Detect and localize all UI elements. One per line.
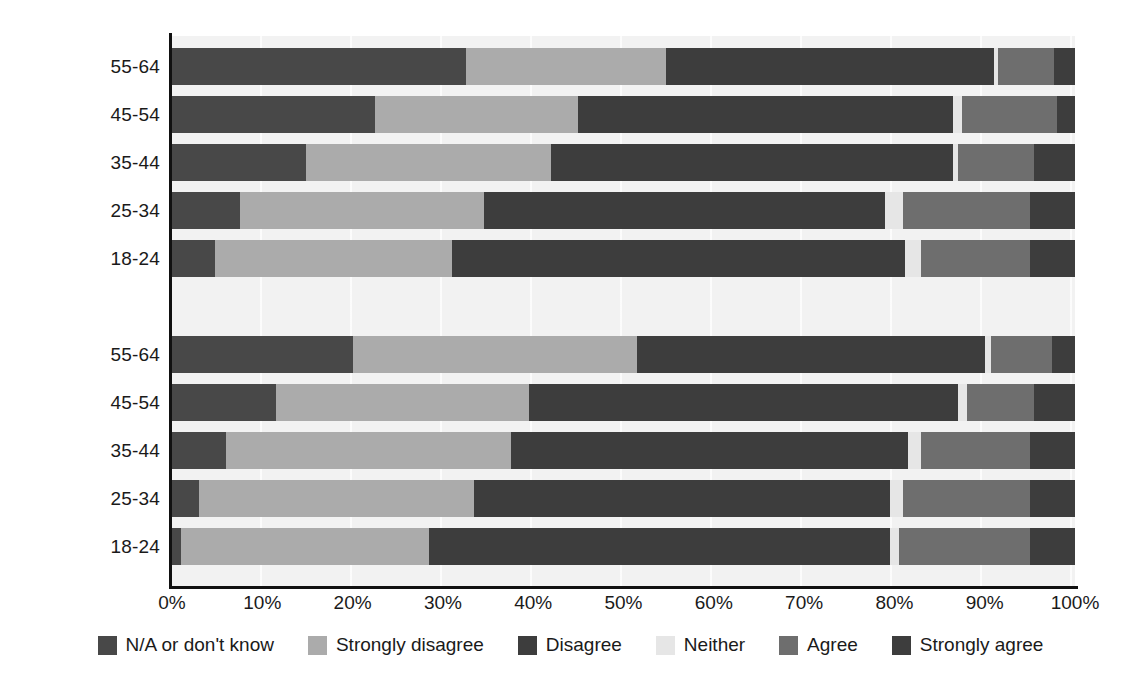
- legend-item[interactable]: Strongly agree: [892, 634, 1044, 656]
- bar-row: [172, 384, 1075, 421]
- legend-item[interactable]: Agree: [779, 634, 858, 656]
- bar-segment: [199, 480, 474, 517]
- legend-item[interactable]: Strongly disagree: [308, 634, 484, 656]
- bar-segment: [306, 144, 552, 181]
- bar-segment: [967, 384, 1035, 421]
- group-label: Women: [0, 152, 55, 174]
- legend-swatch-icon: [98, 636, 117, 655]
- bar-row: [172, 48, 1075, 85]
- bar-segment: [1030, 528, 1075, 565]
- bar-row: [172, 144, 1075, 181]
- x-tick-label: 30%: [424, 592, 462, 614]
- bar-segment: [998, 48, 1053, 85]
- bar-segment: [991, 336, 1052, 373]
- bar-segment: [172, 144, 306, 181]
- bar-row: [172, 432, 1075, 469]
- bar-segment: [578, 96, 953, 133]
- bar-segment: [1030, 432, 1075, 469]
- bar-segment: [226, 432, 510, 469]
- plot-area: [172, 36, 1075, 586]
- bar-segment: [172, 480, 199, 517]
- bar-segment: [899, 528, 1030, 565]
- stacked-bar-chart: 55-6445-5435-4425-3418-2455-6445-5435-44…: [0, 0, 1141, 698]
- bar-segment: [1030, 480, 1075, 517]
- legend-item[interactable]: Neither: [656, 634, 745, 656]
- x-tick-label: 20%: [334, 592, 372, 614]
- bar-segment: [276, 384, 529, 421]
- bar-row: [172, 336, 1075, 373]
- bar-row: [172, 96, 1075, 133]
- bar-segment: [1030, 192, 1075, 229]
- legend-swatch-icon: [308, 636, 327, 655]
- bar-segment: [1030, 240, 1075, 277]
- x-tick-label: 50%: [604, 592, 642, 614]
- x-tick-label: 70%: [785, 592, 823, 614]
- bar-segment: [1034, 384, 1075, 421]
- bar-segment: [240, 192, 484, 229]
- legend-label: Strongly disagree: [336, 634, 484, 656]
- bar-segment: [908, 432, 922, 469]
- x-axis-tick-labels: 0%10%20%30%40%50%60%70%80%90%100%: [172, 592, 1075, 620]
- bar-segment: [215, 240, 452, 277]
- x-tick-label: 80%: [875, 592, 913, 614]
- bar-segment: [921, 240, 1029, 277]
- bar-segment: [890, 528, 899, 565]
- legend-item[interactable]: Disagree: [518, 634, 622, 656]
- bar-segment: [551, 144, 953, 181]
- bar-segment: [890, 480, 904, 517]
- bar-segment: [172, 528, 181, 565]
- legend-label: N/A or don't know: [126, 634, 274, 656]
- bar-segment: [172, 192, 240, 229]
- bar-segment: [1054, 48, 1075, 85]
- bar-segment: [1034, 144, 1075, 181]
- bar-segment: [953, 96, 962, 133]
- bar-segment: [1057, 96, 1075, 133]
- bar-segment: [666, 48, 994, 85]
- bar-segment: [1052, 336, 1075, 373]
- bar-segment: [474, 480, 889, 517]
- bar-segment: [903, 480, 1029, 517]
- bar-row: [172, 480, 1075, 517]
- legend-swatch-icon: [656, 636, 675, 655]
- bar-segment: [958, 144, 1035, 181]
- bar-segment: [172, 336, 353, 373]
- bar-segment: [903, 192, 1029, 229]
- bar-segment: [637, 336, 985, 373]
- bar-segment: [511, 432, 908, 469]
- bar-row: [172, 240, 1075, 277]
- x-tick-label: 0%: [158, 592, 185, 614]
- bar-segment: [172, 48, 466, 85]
- bar-segment: [452, 240, 905, 277]
- chart-legend: N/A or don't knowStrongly disagreeDisagr…: [0, 634, 1141, 656]
- bar-segment: [921, 432, 1029, 469]
- group-label: Men: [0, 440, 55, 462]
- x-tick-label: 100%: [1051, 592, 1100, 614]
- bar-segment: [958, 384, 967, 421]
- y-axis-line: [169, 33, 172, 589]
- bar-row: [172, 192, 1075, 229]
- x-tick-label: 90%: [966, 592, 1004, 614]
- legend-label: Neither: [684, 634, 745, 656]
- bar-segment: [172, 432, 226, 469]
- legend-item[interactable]: N/A or don't know: [98, 634, 274, 656]
- legend-swatch-icon: [518, 636, 537, 655]
- legend-swatch-icon: [892, 636, 911, 655]
- bar-segment: [466, 48, 666, 85]
- bar-segment: [172, 384, 276, 421]
- bar-segment: [181, 528, 429, 565]
- x-axis-line: [169, 586, 1078, 589]
- bar-row: [172, 528, 1075, 565]
- bar-segment: [353, 336, 637, 373]
- bar-segment: [429, 528, 890, 565]
- bar-segment: [375, 96, 578, 133]
- bar-segment: [885, 192, 903, 229]
- bar-segment: [172, 96, 375, 133]
- group-axis-labels: WomenMen: [0, 36, 55, 586]
- x-tick-label: 60%: [695, 592, 733, 614]
- bar-segment: [484, 192, 886, 229]
- legend-label: Strongly agree: [920, 634, 1044, 656]
- legend-label: Agree: [807, 634, 858, 656]
- x-tick-label: 40%: [514, 592, 552, 614]
- bar-segment: [529, 384, 958, 421]
- bar-segment: [962, 96, 1057, 133]
